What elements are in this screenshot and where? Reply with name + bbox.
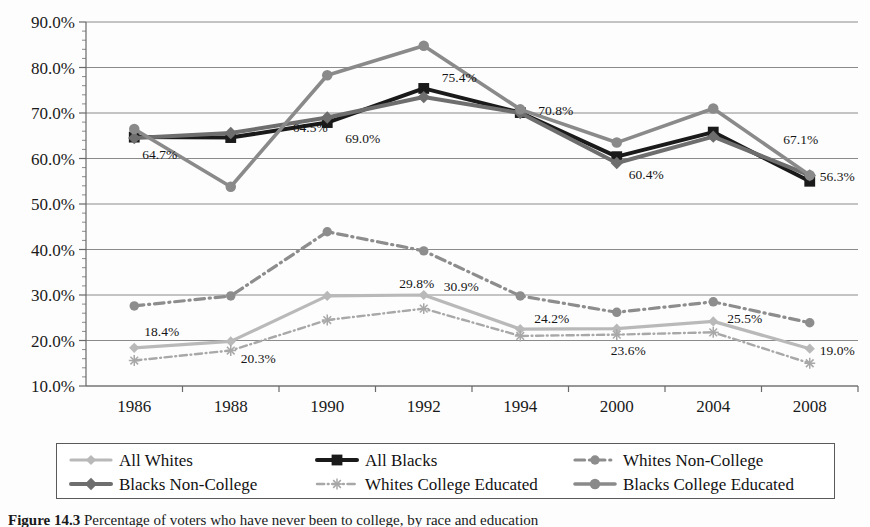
svg-text:1994: 1994: [503, 397, 538, 416]
data-label: 25.5%: [727, 311, 762, 326]
svg-text:1992: 1992: [407, 397, 441, 416]
legend-item[interactable]: Blacks College Educated: [573, 475, 848, 493]
chart-legend: All WhitesAll BlacksWhites Non-CollegeBl…: [56, 443, 835, 499]
chart-svg: 10.0%20.0%30.0%40.0%50.0%60.0%70.0%80.0%…: [0, 0, 870, 440]
data-label: 70.8%: [538, 103, 573, 118]
data-label: 60.4%: [629, 167, 664, 182]
legend-label: Blacks College Educated: [623, 476, 794, 493]
legend-item[interactable]: Blacks Non-College: [69, 475, 315, 493]
data-label: 19.0%: [820, 343, 855, 358]
data-label: 20.3%: [241, 351, 276, 366]
data-label: 23.6%: [611, 343, 646, 358]
figure-container: 10.0%20.0%30.0%40.0%50.0%60.0%70.0%80.0%…: [0, 0, 870, 527]
legend-label: Blacks Non-College: [119, 476, 257, 493]
svg-text:1986: 1986: [117, 397, 151, 416]
svg-text:2000: 2000: [600, 397, 634, 416]
svg-text:2004: 2004: [696, 397, 731, 416]
legend-marker-icon: [315, 451, 359, 469]
legend-label: Whites College Educated: [365, 476, 538, 493]
svg-text:10.0%: 10.0%: [31, 377, 75, 396]
data-label: 29.8%: [399, 276, 434, 291]
legend-item[interactable]: All Blacks: [315, 451, 573, 469]
svg-text:40.0%: 40.0%: [31, 241, 75, 260]
legend-marker-icon: [315, 475, 359, 493]
svg-text:1988: 1988: [214, 397, 248, 416]
svg-text:80.0%: 80.0%: [31, 59, 75, 78]
data-label: 67.1%: [783, 132, 818, 147]
svg-text:2008: 2008: [793, 397, 827, 416]
legend-marker-icon: [573, 451, 617, 469]
data-label: 18.4%: [144, 324, 179, 339]
data-label: 30.9%: [444, 279, 479, 294]
data-label: 24.2%: [534, 311, 569, 326]
data-label: 64.7%: [142, 147, 177, 162]
x-axis-tick-labels: 19861988199019921994200020042008: [117, 397, 827, 416]
legend-label: All Blacks: [365, 452, 437, 469]
svg-text:50.0%: 50.0%: [31, 195, 75, 214]
data-label: 56.3%: [820, 169, 855, 184]
data-label: 64.5%: [293, 120, 328, 135]
legend-item[interactable]: Whites Non-College: [573, 451, 848, 469]
svg-text:90.0%: 90.0%: [31, 13, 75, 32]
legend-label: Whites Non-College: [623, 452, 763, 469]
legend-label: All Whites: [119, 452, 193, 469]
legend-grid: All WhitesAll BlacksWhites Non-CollegeBl…: [57, 448, 834, 498]
data-label: 75.4%: [442, 70, 477, 85]
caption-label: Figure 14.3: [8, 512, 80, 527]
y-axis-tick-labels: 10.0%20.0%30.0%40.0%50.0%60.0%70.0%80.0%…: [31, 13, 75, 396]
svg-text:30.0%: 30.0%: [31, 286, 75, 305]
figure-caption: Figure 14.3 Percentage of voters who hav…: [8, 512, 868, 527]
svg-text:20.0%: 20.0%: [31, 332, 75, 351]
legend-item[interactable]: All Whites: [69, 451, 315, 469]
legend-marker-icon: [573, 475, 617, 493]
line-chart: 10.0%20.0%30.0%40.0%50.0%60.0%70.0%80.0%…: [0, 0, 870, 440]
legend-marker-icon: [69, 451, 113, 469]
legend-marker-icon: [69, 475, 113, 493]
svg-text:60.0%: 60.0%: [31, 150, 75, 169]
svg-text:1990: 1990: [310, 397, 344, 416]
data-label: 69.0%: [345, 131, 380, 146]
caption-text: Percentage of voters who have never been…: [84, 512, 538, 527]
legend-item[interactable]: Whites College Educated: [315, 475, 573, 493]
series-blacks-college-educated: [129, 40, 815, 192]
series-group: [128, 40, 816, 368]
svg-text:70.0%: 70.0%: [31, 104, 75, 123]
